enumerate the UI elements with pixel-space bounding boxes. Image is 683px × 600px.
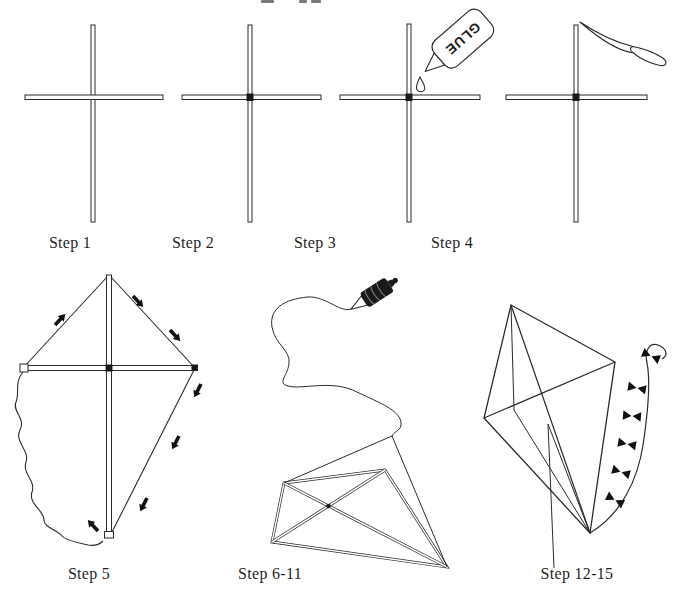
step3-label: Step 3 [294,234,336,252]
flying-string [548,424,554,568]
kite-spine [511,305,590,533]
glue-bottle-icon: GLUE [414,5,497,84]
joint-lashing [247,94,254,102]
wrap-direction-arrow-icons [52,293,205,534]
step6-11-figure [272,272,447,567]
step1-label: Step 1 [49,234,91,252]
step12-15-label: Step 12-15 [541,565,614,583]
right-notch [192,365,199,372]
kite-sticks [272,470,447,567]
step5-label: Step 5 [68,565,110,583]
flying-string [272,297,401,436]
instruction-sheet: GLUE [0,0,683,600]
glue-drop-icon [416,77,425,92]
kite-spar [484,362,615,418]
joint-lashing [106,365,113,372]
step6-11-label: Step 6-11 [238,565,302,583]
kite-sail-outline [484,305,615,533]
step5-figure kite-frame [15,275,204,545]
loose-string [15,372,103,545]
step1-figure crossed-sticks-icon [25,25,163,222]
diagram-artwork: GLUE [0,0,683,600]
frame-sticks [20,275,195,538]
step2-label: Step 2 [172,234,214,252]
step2-figure crossed-sticks-tied-icon [182,25,321,222]
step4-figure [506,22,666,222]
step12-15-figure finished-kite [484,305,666,568]
knife-icon [580,22,666,66]
step4-label: Step 4 [431,234,473,252]
center-joint [326,504,331,509]
outline-string [15,277,195,545]
kite-tail-string [590,344,666,533]
string-spool-icon [346,272,402,317]
step3-figure: GLUE [340,5,497,222]
